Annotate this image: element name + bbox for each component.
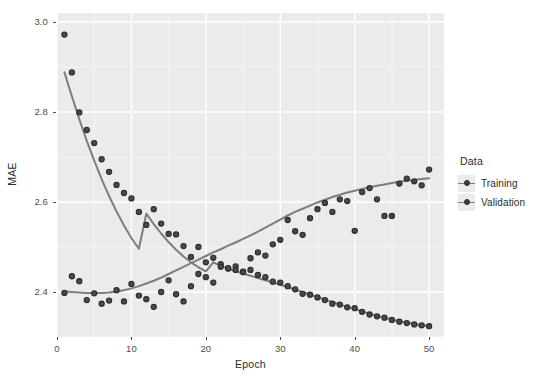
data-point	[427, 167, 432, 172]
data-point	[360, 309, 365, 314]
data-point	[77, 279, 82, 284]
y-tick-mark	[53, 202, 56, 203]
data-point	[159, 221, 164, 226]
data-point	[62, 290, 67, 295]
x-tick-label: 50	[414, 343, 444, 354]
data-point	[129, 196, 134, 201]
data-point	[389, 317, 394, 322]
data-point	[114, 182, 119, 187]
legend-item-validation[interactable]: Validation	[458, 193, 544, 211]
data-point	[307, 216, 312, 221]
data-point	[419, 323, 424, 328]
legend-item-label: Training	[481, 178, 518, 189]
data-point	[77, 110, 82, 115]
data-point	[315, 207, 320, 212]
data-point	[218, 264, 223, 269]
data-point	[181, 299, 186, 304]
data-point	[211, 280, 216, 285]
data-point	[404, 176, 409, 181]
data-point	[211, 255, 216, 260]
y-tick-label: 3.0	[14, 16, 48, 27]
data-point	[196, 244, 201, 249]
legend-item-training[interactable]: Training	[458, 174, 544, 192]
data-point	[337, 197, 342, 202]
x-tick-mark	[280, 337, 281, 340]
data-point	[84, 127, 89, 132]
data-point	[99, 301, 104, 306]
data-point	[293, 229, 298, 234]
y-tick-label: 2.6	[14, 196, 48, 207]
x-axis-title: Epoch	[57, 358, 444, 370]
y-tick-mark	[53, 292, 56, 293]
data-point	[173, 232, 178, 237]
data-point	[419, 183, 424, 188]
legend-title: Data	[460, 155, 544, 167]
data-point	[330, 301, 335, 306]
data-point	[382, 315, 387, 320]
data-point	[300, 232, 305, 237]
data-point	[136, 209, 141, 214]
data-point	[367, 312, 372, 317]
data-point	[300, 291, 305, 296]
data-point	[374, 314, 379, 319]
legend-key-point	[464, 180, 470, 186]
data-point	[121, 190, 126, 195]
data-point	[397, 319, 402, 324]
data-point	[315, 295, 320, 300]
data-point	[240, 270, 245, 275]
data-point	[136, 293, 141, 298]
legend-key-icon	[458, 194, 475, 211]
data-point	[330, 209, 335, 214]
data-point	[166, 231, 171, 236]
y-tick-label: 2.8	[14, 106, 48, 117]
data-point	[389, 213, 394, 218]
x-tick-mark	[57, 337, 58, 340]
data-point	[285, 217, 290, 222]
data-point	[151, 207, 156, 212]
data-point	[412, 322, 417, 327]
legend-key-icon	[458, 175, 475, 192]
legend-item-label: Validation	[481, 197, 525, 208]
data-point	[114, 288, 119, 293]
data-point	[107, 169, 112, 174]
data-point	[188, 254, 193, 259]
plot-svg	[57, 13, 444, 337]
data-point	[285, 284, 290, 289]
x-tick-label: 40	[340, 343, 370, 354]
legend-key-point	[464, 199, 470, 205]
data-point	[263, 253, 268, 258]
legend-items: TrainingValidation	[458, 174, 544, 211]
data-point	[107, 298, 112, 303]
data-point	[62, 32, 67, 37]
data-point	[203, 260, 208, 265]
data-point	[129, 281, 134, 286]
data-point	[69, 70, 74, 75]
y-tick-label: 2.4	[14, 286, 48, 297]
data-point	[270, 279, 275, 284]
data-point	[233, 267, 238, 272]
data-point	[322, 200, 327, 205]
data-point	[404, 320, 409, 325]
data-point	[92, 291, 97, 296]
data-point	[188, 284, 193, 289]
x-tick-mark	[429, 337, 430, 340]
x-tick-mark	[355, 337, 356, 340]
data-point	[255, 272, 260, 277]
points-validation	[62, 167, 432, 309]
x-tick-mark	[131, 337, 132, 340]
data-point	[151, 304, 156, 309]
data-point	[397, 181, 402, 186]
y-tick-mark	[53, 112, 56, 113]
data-point	[367, 185, 372, 190]
y-tick-mark	[53, 22, 56, 23]
data-point	[352, 228, 357, 233]
data-point	[352, 306, 357, 311]
data-point	[345, 199, 350, 204]
data-point	[69, 274, 74, 279]
x-tick-label: 10	[116, 343, 146, 354]
legend: Data TrainingValidation	[458, 155, 544, 212]
data-point	[203, 275, 208, 280]
data-point	[144, 222, 149, 227]
data-point	[121, 299, 126, 304]
data-point	[255, 250, 260, 255]
